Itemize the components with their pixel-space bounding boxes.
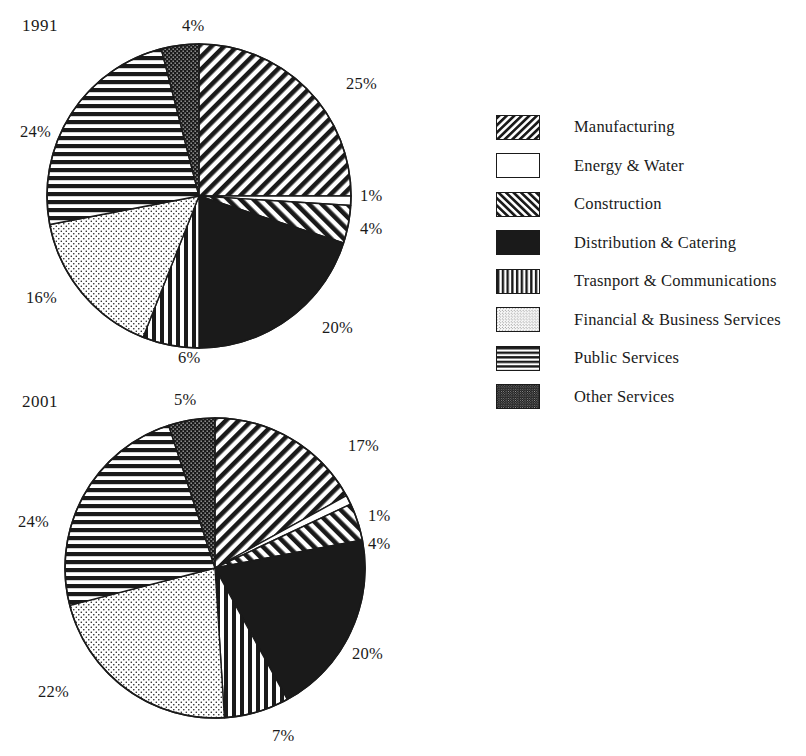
pie-svg-2001 [0,376,470,756]
pie-chart-2001: 2001 17%1%4%20%7%22%24%5% [0,376,470,756]
legend-item-label: Other Services [574,387,674,407]
swatch-public-services [496,346,540,371]
legend-item-label: Trasnport & Communications [574,271,777,291]
pie-value-label: 1% [360,186,383,206]
pie-slice-manufacturing [199,44,351,196]
legend-item-label: Energy & Water [574,156,684,176]
swatch-construction [496,192,540,217]
pie-value-label: 22% [38,682,69,702]
pie-value-label: 4% [368,534,391,554]
pie-value-label: 20% [322,318,353,338]
pie-value-label: 1% [368,506,391,526]
pie-value-label: 16% [26,288,57,308]
pie-value-label: 7% [272,726,295,746]
legend-item-label: Public Services [574,348,679,368]
pie-value-label: 24% [20,122,51,142]
legend-item-label: Construction [574,194,662,214]
swatch-distribution-catering [496,230,540,255]
legend-item[interactable]: Energy & Water [496,147,796,186]
legend-item-label: Manufacturing [574,117,675,137]
legend: Manufacturing Energy & Water [496,108,796,416]
legend-item[interactable]: Trasnport & Communications [496,262,796,301]
legend-item[interactable]: Construction [496,185,796,224]
legend-item[interactable]: Public Services [496,339,796,378]
pie-value-label: 6% [178,348,201,368]
legend-item[interactable]: Manufacturing [496,108,796,147]
pie-value-label: 24% [18,512,49,532]
legend-item-label: Financial & Business Services [574,310,781,330]
swatch-energy-water [496,153,540,178]
pie-value-label: 20% [352,644,383,664]
pie-value-label: 4% [360,219,383,239]
legend-item[interactable]: Financial & Business Services [496,301,796,340]
pie-chart-1991: 1991 25%1%4%20%6%16%24%4% [0,0,470,380]
swatch-manufacturing [496,115,540,140]
pie-value-label: 25% [346,74,377,94]
swatch-other-services [496,384,540,409]
pie-value-label: 5% [174,390,197,410]
legend-item[interactable]: Other Services [496,378,796,417]
swatch-transport-communications [496,269,540,294]
pie-value-label: 4% [182,16,205,36]
swatch-financial-business-services [496,307,540,332]
legend-item-label: Distribution & Catering [574,233,736,253]
pie-svg-1991 [0,0,470,380]
legend-item[interactable]: Distribution & Catering [496,224,796,263]
pie-value-label: 17% [348,436,379,456]
